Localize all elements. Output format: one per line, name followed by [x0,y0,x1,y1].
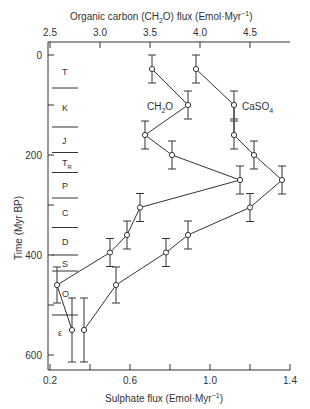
period-label: S [62,259,68,269]
data-point [107,250,112,255]
data-point [113,282,118,287]
top-tick-label: 2.5 [43,27,57,38]
data-point [193,66,198,71]
bottom-tick-label: 1.4 [283,375,297,386]
period-label: T [62,67,68,77]
period-label: C [62,208,69,218]
data-point [231,102,236,107]
data-point [279,177,284,182]
data-point [81,327,86,332]
period-label: P [62,181,68,191]
flux-chart: 2.53.03.54.04.50.20.61.01.40200400600 TK… [0,0,310,409]
top-tick-label: 4.5 [243,27,257,38]
data-point [137,205,142,210]
top-tick-label: 4.0 [193,27,207,38]
period-label: TR [62,158,73,170]
top-tick-label: 3.5 [143,27,157,38]
y-axis-title: Time (Myr BP) [13,196,24,260]
data-point [69,327,74,332]
top-tick-label: 3.0 [93,27,107,38]
period-label: K [62,103,68,113]
top-axis-title: Organic carbon (CH2O) flux (Emol·Myr−1) [70,10,253,24]
period-label: ε [58,328,62,338]
series-label-ch2o: CH2O [147,101,173,114]
data-point [185,232,190,237]
data-point [237,177,242,182]
data-point [251,152,256,157]
data-point [124,232,129,237]
bottom-axis-title: Sulphate flux (Emol·Myr−1) [105,392,223,404]
data-point [169,152,174,157]
y-tick-label: 200 [25,150,42,161]
y-tick-label: 400 [25,250,42,261]
data-point [163,250,168,255]
data-point [247,205,252,210]
y-tick-label: 600 [25,350,42,361]
period-label: D [62,237,69,247]
data-point [231,132,236,137]
y-tick-label: 0 [36,50,42,61]
period-label: O [62,289,69,299]
bottom-tick-label: 1.0 [203,375,217,386]
data-point [185,102,190,107]
data-point [54,282,59,287]
bottom-tick-label: 0.2 [43,375,57,386]
series-label-caso4: CaSO4 [242,101,273,114]
data-point [142,132,147,137]
period-label: J [62,136,67,146]
data-point [149,66,154,71]
bottom-tick-label: 0.6 [123,375,137,386]
